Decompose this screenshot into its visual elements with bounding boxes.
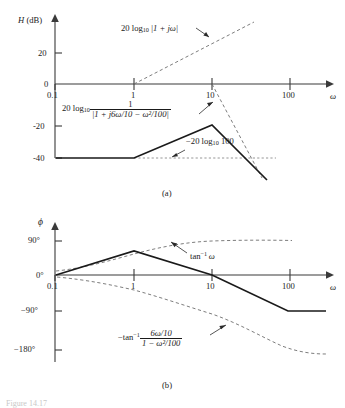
annotation-neg-arctan-b: −tan−16ω/101 − ω²/100 <box>118 329 182 347</box>
x-tick-1-b: 1 <box>131 282 135 291</box>
y-axis-label-a: H (dB) <box>18 16 42 25</box>
y-axis-a <box>51 14 62 158</box>
annotation-arctan-b: tan−1 ω <box>190 251 215 260</box>
phase-plot-canvas <box>0 210 345 405</box>
annotation-arrow-second-order-a <box>199 102 213 114</box>
y-tick-minus40-a: -40 <box>33 154 44 163</box>
y-tick-0-a: 0 <box>44 80 48 89</box>
annotation-minus40-a: −20 log10 100 <box>186 137 234 147</box>
series-second-order-asymptote-a <box>212 84 262 178</box>
x-axis-label-b: ω <box>330 283 336 292</box>
y-tick-minus20-a: -20 <box>33 122 44 131</box>
annotation-arrow-arctan-b <box>171 242 187 253</box>
x-axis-b <box>55 269 334 281</box>
annotation-second-order-a: 20 log101|1 + j6ω/10 − ω²/100| <box>62 100 171 118</box>
y-tick-0-b: 0° <box>36 271 44 280</box>
x-tick-10-a: 10 <box>206 91 215 100</box>
annotation-arrow-minus40-a <box>172 150 185 157</box>
x-tick-100-a: 100 <box>282 91 295 100</box>
x-axis-a <box>55 78 334 90</box>
y-axis-label-b: ϕ <box>38 217 43 227</box>
annotation-arrow-first-order-a <box>196 28 209 37</box>
x-tick-0.1-a: 0.1 <box>47 91 58 100</box>
x-tick-100-b: 100 <box>282 282 295 291</box>
y-tick-minus180-b: −180° <box>14 345 35 354</box>
x-tick-10-b: 10 <box>206 282 215 291</box>
annotation-arrow-neg-arctan-b <box>210 325 226 335</box>
caption-a: (a) <box>162 188 172 198</box>
y-tick-90-b: 90° <box>28 236 40 245</box>
annotation-first-order-a: 20 log10 |1 + jω| <box>121 24 178 34</box>
x-axis-label-a: ω <box>330 92 336 101</box>
caption-b: (b) <box>162 380 172 390</box>
y-tick-20-a: 20 <box>38 49 47 58</box>
x-tick-0.1-b: 0.1 <box>47 282 58 291</box>
y-tick-minus90-b: −90° <box>21 306 38 315</box>
figure-footer-fragment: Figure 14.17 <box>6 399 47 408</box>
series-resultant-magnitude-a <box>56 125 267 180</box>
y-axis-b <box>51 222 62 362</box>
